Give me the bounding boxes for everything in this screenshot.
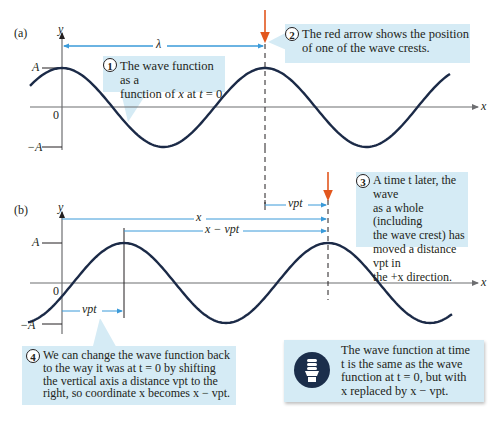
step-4-badge: 4: [26, 349, 40, 363]
x-minus-vpt-label: x − vpt: [205, 222, 239, 237]
lightbulb-icon: [294, 352, 330, 388]
tick-negA: −A: [20, 318, 35, 333]
callout-4: 4 We can change the wave function back t…: [22, 346, 236, 405]
tick-zero: 0: [53, 284, 59, 299]
tick-zero: 0: [53, 108, 59, 123]
step-2-badge: 2: [285, 27, 299, 41]
y-axis-label: y: [58, 22, 63, 37]
callout-1: 1 The wave function as a function of x a…: [103, 56, 225, 92]
wavelength-label: λ: [156, 37, 161, 52]
x-axis-label: x: [481, 275, 486, 290]
step-3-badge: 3: [356, 174, 370, 188]
callout-2: 2 The red arrow shows the position of on…: [285, 24, 470, 63]
x-axis-label: x: [481, 99, 486, 114]
tick-A: A: [32, 235, 39, 250]
panel-a-label: (a): [14, 26, 27, 41]
y-axis-label: y: [58, 200, 63, 215]
x-dimension-label: x: [196, 210, 201, 225]
panel-b-label: (b): [14, 203, 28, 218]
vpt-bottom-label: vpt: [82, 302, 97, 317]
tip-box: The wave function at time t is the same …: [284, 340, 484, 402]
tick-negA: −A: [27, 140, 42, 155]
tick-A: A: [32, 60, 39, 75]
vpt-top-label: vpt: [288, 196, 303, 211]
step-1-badge: 1: [103, 58, 117, 72]
callout-3: 3 A time t later, the wave as a whole (i…: [356, 172, 468, 247]
